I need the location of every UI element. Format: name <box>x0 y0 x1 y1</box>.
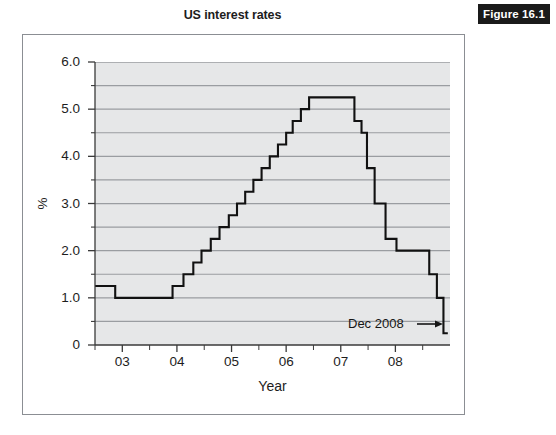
annotation-arrow-icon <box>417 318 443 330</box>
y-axis-title: % <box>35 197 50 209</box>
x-axis-title: Year <box>95 378 450 394</box>
y-tick-label: 4.0 <box>38 149 80 163</box>
y-tick-label: 0 <box>38 338 80 352</box>
y-tick-label: 1.0 <box>38 291 80 305</box>
chart-title: US interest rates <box>0 8 465 22</box>
y-tick-label: 6.0 <box>38 55 80 69</box>
x-tick-label: 05 <box>212 355 252 369</box>
annotation-dec-2008: Dec 2008 <box>348 316 404 331</box>
figure-number-badge: Figure 16.1 <box>478 4 550 24</box>
x-tick-label: 06 <box>266 355 306 369</box>
x-tick-label: 04 <box>157 355 197 369</box>
x-tick-label: 03 <box>102 355 142 369</box>
y-tick-label: 2.0 <box>38 244 80 258</box>
chart-canvas <box>95 62 450 345</box>
x-tick-label: 07 <box>321 355 361 369</box>
x-tick-label: 08 <box>375 355 415 369</box>
y-tick-label: 5.0 <box>38 102 80 116</box>
plot-area <box>95 62 450 345</box>
figure-number-label: Figure 16.1 <box>483 8 545 20</box>
